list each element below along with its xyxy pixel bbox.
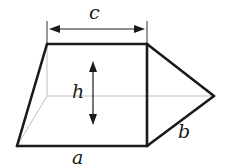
label-c: c (89, 1, 100, 23)
prism-diagram: c h a b (0, 0, 229, 167)
label-h: h (72, 80, 84, 102)
arrow-right-icon (134, 25, 145, 33)
edge-left-slant (17, 44, 47, 146)
arrow-up-icon (89, 61, 97, 72)
label-a: a (72, 146, 83, 167)
hidden-edge-diagonal (17, 96, 47, 146)
label-b: b (178, 120, 190, 142)
edge-upper-slant (147, 44, 214, 96)
arrow-left-icon (49, 25, 60, 33)
arrow-down-icon (89, 114, 97, 125)
